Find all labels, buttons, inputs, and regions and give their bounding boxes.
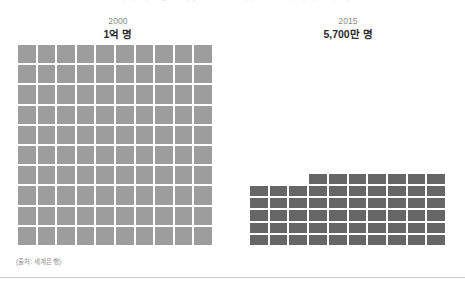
waffle-cell-filled [329,223,347,233]
waffle-cell-filled [368,174,386,184]
waffle-cell-filled [18,146,36,164]
waffle-cell-filled [289,235,307,245]
waffle-cell-empty [408,137,426,147]
waffle-cell-empty [270,174,288,184]
waffle-cell-filled [77,65,95,83]
waffle-cell-empty [289,174,307,184]
waffle-cell-filled [349,235,367,245]
waffle-cell-filled [309,198,327,208]
waffle-cell-filled [18,85,36,103]
waffle-cell-filled [194,126,212,144]
panel-label-2000: 2000 1억 명 [18,16,218,41]
waffle-cell-empty [289,137,307,147]
waffle-cell-filled [250,186,268,196]
waffle-cell-filled [194,207,212,225]
waffle-cell-filled [155,106,173,124]
waffle-cell-filled [77,45,95,63]
waffle-cell-empty [270,125,288,135]
waffle-cell-filled [96,166,114,184]
waffle-cell-filled [388,174,406,184]
waffle-cell-filled [427,235,445,245]
waffle-cell-filled [155,166,173,184]
waffle-cell-filled [38,207,56,225]
waffle-cell-filled [388,198,406,208]
waffle-cell-empty [270,137,288,147]
waffle-cell-filled [427,223,445,233]
waffle-cell-filled [175,65,193,83]
page-headline: 세계 극빈층 인구, 2000년 이후 절반 가까이 줄었다 [0,0,465,1]
waffle-cell-filled [427,186,445,196]
waffle-cell-filled [136,45,154,63]
waffle-cell-filled [38,126,56,144]
panel-value-2000: 1억 명 [18,28,218,41]
waffle-cell-filled [96,106,114,124]
waffle-cell-filled [194,186,212,204]
waffle-cell-empty [309,149,327,159]
waffle-cell-empty [309,162,327,172]
waffle-cell-filled [18,207,36,225]
waffle-cell-filled [155,227,173,245]
waffle-cell-filled [155,186,173,204]
waffle-cell-filled [77,207,95,225]
waffle-cell-empty [309,137,327,147]
waffle-cell-filled [368,198,386,208]
waffle-cell-empty [289,125,307,135]
waffle-cell-filled [408,198,426,208]
waffle-cell-filled [38,146,56,164]
waffle-cell-filled [136,166,154,184]
waffle-cell-filled [18,126,36,144]
waffle-cell-empty [250,162,268,172]
waffle-cell-empty [289,149,307,159]
waffle-cell-filled [155,207,173,225]
waffle-cell-filled [155,126,173,144]
waffle-cell-filled [175,227,193,245]
waffle-cell-filled [175,166,193,184]
waffle-cell-filled [116,207,134,225]
waffle-cell-filled [38,106,56,124]
waffle-cell-filled [155,146,173,164]
waffle-cell-filled [270,198,288,208]
waffle-cell-filled [408,174,426,184]
waffle-cell-empty [349,125,367,135]
waffle-cell-empty [388,149,406,159]
waffle-cell-empty [368,162,386,172]
waffle-cell-filled [349,174,367,184]
waffle-cell-empty [329,149,347,159]
waffle-cell-filled [408,210,426,220]
waffle-cell-filled [57,186,75,204]
waffle-cell-empty [408,162,426,172]
waffle-cell-filled [194,65,212,83]
waffle-cell-filled [289,223,307,233]
waffle-cell-filled [329,210,347,220]
waffle-chart-2000 [18,45,212,245]
waffle-cell-empty [250,125,268,135]
waffle-cell-filled [368,186,386,196]
waffle-cell-empty [427,162,445,172]
waffle-cell-filled [270,235,288,245]
waffle-cell-filled [96,186,114,204]
waffle-cell-filled [349,198,367,208]
waffle-cell-filled [194,45,212,63]
waffle-cell-filled [329,174,347,184]
waffle-cell-filled [388,186,406,196]
waffle-cell-filled [270,223,288,233]
waffle-cell-filled [116,126,134,144]
waffle-cell-filled [77,227,95,245]
waffle-cell-filled [18,227,36,245]
waffle-cell-filled [116,146,134,164]
waffle-cell-filled [96,146,114,164]
waffle-cell-filled [408,186,426,196]
waffle-chart-2015 [250,125,445,245]
waffle-cell-filled [96,207,114,225]
waffle-cell-filled [427,174,445,184]
waffle-cell-filled [116,186,134,204]
headline-clip: 세계 극빈층 인구, 2000년 이후 절반 가까이 줄었다 [0,0,465,1]
waffle-cell-filled [368,210,386,220]
waffle-cell-filled [194,227,212,245]
waffle-cell-filled [250,210,268,220]
waffle-cell-filled [96,126,114,144]
waffle-cell-filled [57,45,75,63]
waffle-cell-filled [194,106,212,124]
waffle-cell-filled [388,210,406,220]
waffle-cell-filled [250,198,268,208]
